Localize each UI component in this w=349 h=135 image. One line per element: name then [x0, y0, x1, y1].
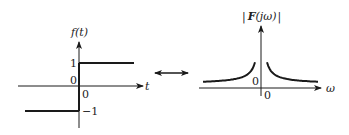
right-y-axis-label: |F(jω)| [242, 10, 281, 24]
spectrum-curve-right [267, 62, 318, 81]
left-x-axis-label: t [145, 80, 150, 93]
origin-label-below: 0 [82, 88, 89, 101]
right-x-axis-label: ω [326, 82, 335, 95]
fourier-pair-diagram: f(t) t 1 0 0 −1 |F(jω)| ω 0 0 [0, 0, 349, 135]
tick-label-pos-one: 1 [70, 57, 77, 70]
tick-label-neg-one: −1 [82, 105, 98, 118]
left-plot: f(t) t 1 0 0 −1 [18, 26, 150, 128]
right-origin-label-left: 0 [252, 75, 259, 88]
left-y-axis-label: f(t) [70, 26, 88, 39]
origin-label-left: 0 [70, 74, 77, 87]
right-plot: |F(jω)| ω 0 0 [199, 10, 335, 102]
right-origin-label-below: 0 [264, 89, 271, 102]
spectrum-curve-left [203, 62, 255, 82]
